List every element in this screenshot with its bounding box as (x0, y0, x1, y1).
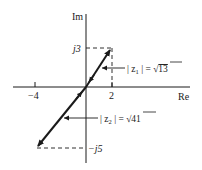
complex-plane-diagram: Im Re −4 2 j3 −j5 | z1 | = √13 | z2 | = … (0, 0, 202, 170)
tick-label-neg4: −4 (28, 90, 39, 101)
z2-origin-arrow (76, 92, 82, 99)
svg-text:| z2 | = √41: | z2 | = √41 (100, 114, 141, 125)
z1-origin-arrow (89, 75, 94, 82)
tick-label-neg-j5: −j5 (88, 143, 103, 154)
z2-magnitude-label: | z2 | = √41 (100, 112, 156, 125)
tick-label-j3: j3 (71, 43, 81, 54)
real-axis-label: Re (178, 91, 190, 102)
imag-axis-label: Im (72, 11, 83, 22)
z1-magnitude-label: | z1 | = √13 (127, 62, 182, 75)
svg-text:| z1 | = √13: | z1 | = √13 (127, 64, 168, 75)
tick-label-2: 2 (109, 90, 114, 101)
